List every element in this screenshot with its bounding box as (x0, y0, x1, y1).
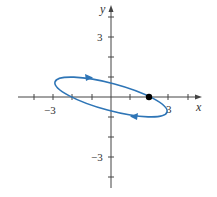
x-axis-arrow-icon (195, 95, 202, 100)
parametric-plot: x y −3 3 3 −3 (0, 0, 217, 197)
y-tick-label-3: 3 (97, 31, 103, 43)
direction-arrow-right-icon (85, 74, 93, 81)
marked-point (146, 94, 152, 100)
y-axis-label: y (99, 2, 106, 16)
y-axis-arrow-icon (109, 5, 114, 12)
x-tick-label-neg3: −3 (44, 104, 56, 116)
x-axis-label: x (195, 100, 202, 114)
y-tick-label-neg3: −3 (91, 151, 103, 163)
x-axis (18, 94, 202, 100)
direction-arrow-left-icon (130, 113, 138, 120)
